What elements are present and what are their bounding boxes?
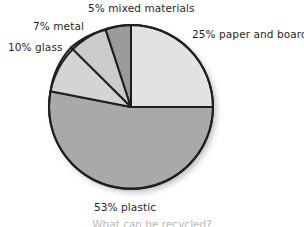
- pie-label-glass: 10% glass: [8, 41, 63, 53]
- pie-slices-group: [49, 25, 213, 189]
- pie-label-metal: 7% metal: [33, 20, 84, 32]
- figure-caption: What can be recycled?: [0, 218, 304, 227]
- pie-label-plastic: 53% plastic: [94, 201, 156, 213]
- pie-chart-figure: 5% mixed materials 7% metal 10% glass 25…: [0, 0, 304, 227]
- pie-label-mixed-materials: 5% mixed materials: [88, 2, 195, 14]
- pie-label-paper-and-board: 25% paper and board: [192, 28, 304, 40]
